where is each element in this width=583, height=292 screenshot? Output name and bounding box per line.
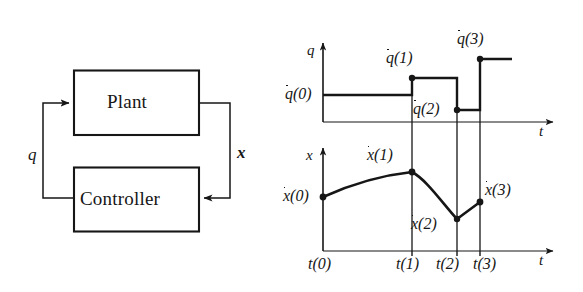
q-point-label-3: q(3) bbox=[457, 31, 484, 47]
figure-graphics bbox=[0, 0, 583, 292]
overbar-q0 bbox=[286, 85, 289, 86]
x-signal-label: x bbox=[237, 144, 246, 161]
q-point-label-2-base: q bbox=[413, 100, 421, 117]
x-point-label-3-arg: (3) bbox=[492, 181, 511, 198]
x-point-label-2-base: x bbox=[411, 215, 418, 232]
x-point-label-3: x(3) bbox=[485, 182, 511, 198]
q-point-label-2: q(2) bbox=[413, 101, 440, 117]
x-tick-label-0-arg: (0) bbox=[312, 255, 331, 272]
x-point-label-0: x(0) bbox=[283, 188, 309, 204]
x-signal-path bbox=[199, 103, 230, 198]
x-state-trajectory bbox=[320, 169, 484, 223]
x-tick-label-2: t(2) bbox=[436, 256, 459, 272]
q-signal-path bbox=[43, 103, 74, 198]
x-point-label-1-base: x bbox=[367, 146, 374, 163]
x-sample-dot-2 bbox=[454, 216, 460, 222]
x-tick-label-0-base: t bbox=[308, 255, 312, 272]
overbar-q1 bbox=[387, 49, 390, 50]
x-tick-label-3-base: t bbox=[473, 255, 477, 272]
q-point-label-0-base: q bbox=[285, 85, 293, 102]
x-tick-label-3-arg: (3) bbox=[477, 255, 496, 272]
x-plot-x-axis-label: t bbox=[539, 253, 543, 268]
x-plot-y-axis-label: x bbox=[306, 148, 313, 163]
overbar-x2 bbox=[412, 215, 414, 216]
q-sample-dot-3 bbox=[477, 56, 483, 62]
x-tick-label-1-arg: (1) bbox=[400, 255, 419, 272]
q-point-label-1-base: q bbox=[386, 49, 394, 66]
controller-block-label: Controller bbox=[80, 189, 160, 208]
x-tick-label-1-base: t bbox=[396, 255, 400, 272]
q-signal-label: q bbox=[28, 146, 37, 163]
x-point-label-0-arg: (0) bbox=[290, 187, 309, 204]
q-sample-dot-1 bbox=[409, 75, 415, 81]
q-point-label-3-arg: (3) bbox=[465, 30, 484, 47]
q-point-label-0: q(0) bbox=[285, 86, 312, 102]
x-plot-axes bbox=[323, 148, 553, 256]
q-plot-x-axis-label: t bbox=[539, 124, 543, 139]
x-tick-label-3: t(3) bbox=[473, 256, 496, 272]
q-point-label-0-arg: (0) bbox=[293, 85, 312, 102]
x-tick-label-0: t(0) bbox=[308, 256, 331, 272]
q-point-label-3-base: q bbox=[457, 30, 465, 47]
x-point-label-2-arg: (2) bbox=[418, 215, 437, 232]
x-tick-label-2-base: t bbox=[436, 255, 440, 272]
x-point-label-3-base: x bbox=[485, 181, 492, 198]
x-point-label-1: x(1) bbox=[367, 147, 393, 163]
x-point-label-2: x(2) bbox=[411, 216, 437, 232]
figure-root: Plant Controller q x q t q(0) q(1) q(2) … bbox=[0, 0, 583, 292]
overbar-x3 bbox=[486, 181, 488, 182]
overbar-x0 bbox=[284, 187, 286, 188]
x-sample-dot-3 bbox=[477, 199, 484, 206]
q-point-label-1: q(1) bbox=[386, 50, 413, 66]
x-tick-label-1: t(1) bbox=[396, 256, 419, 272]
overbar-x1 bbox=[368, 146, 370, 147]
overbar-q3 bbox=[458, 30, 461, 31]
x-sample-dot-1 bbox=[409, 169, 416, 176]
q-sample-dot-2 bbox=[454, 107, 460, 113]
q-point-label-1-arg: (1) bbox=[394, 49, 413, 66]
q-point-label-2-arg: (2) bbox=[421, 100, 440, 117]
plant-block-label: Plant bbox=[107, 92, 147, 111]
x-point-label-1-arg: (1) bbox=[374, 146, 393, 163]
x-sample-dot-0 bbox=[320, 194, 327, 201]
overbar-q2 bbox=[414, 100, 417, 101]
q-plot-y-axis-label: q bbox=[307, 43, 315, 58]
x-tick-label-2-arg: (2) bbox=[440, 255, 459, 272]
x-point-label-0-base: x bbox=[283, 187, 290, 204]
